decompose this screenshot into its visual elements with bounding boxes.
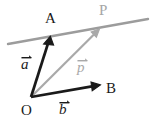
point-label-B: B xyxy=(106,81,116,96)
vector-label-p: p xyxy=(77,60,87,75)
vector-a-arrow xyxy=(31,36,54,97)
vector-diagram-figure: A P O B a b p xyxy=(0,0,156,123)
point-label-A: A xyxy=(45,11,56,26)
vector-label-a: a xyxy=(21,57,31,72)
line-through-A-and-P xyxy=(8,19,148,44)
vector-label-p-text: p xyxy=(77,60,85,75)
vector-label-a-text: a xyxy=(21,57,29,72)
vector-label-b: b xyxy=(59,102,69,117)
point-label-P: P xyxy=(99,3,107,18)
vector-label-b-text: b xyxy=(59,102,67,117)
point-label-O: O xyxy=(21,103,32,118)
vector-b-arrow xyxy=(31,82,100,97)
